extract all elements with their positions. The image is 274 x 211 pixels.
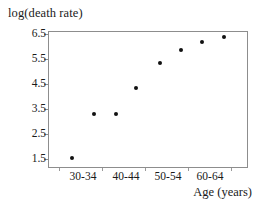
y-tick-label: 1.5 [20,153,46,165]
scatter-plot-figure: log(death rate) 6.55.54.53.52.51.5 30-34… [0,0,274,211]
y-tick-label: 6.5 [20,28,46,40]
data-point [158,61,162,65]
data-point [134,86,138,90]
data-point [222,35,226,39]
data-point [70,156,74,160]
x-tick-label: 50-54 [155,170,182,183]
y-tick-label: 2.5 [20,128,46,140]
data-point [92,112,96,116]
y-axis-tick-labels: 6.55.54.53.52.51.5 [16,31,46,168]
y-axis-title: log(death rate) [8,6,83,20]
x-axis-title: Age (years) [193,185,252,199]
x-tick-label: 40-44 [113,170,140,183]
data-point [200,40,204,44]
x-axis-tick-labels: 30-3440-4450-5460-64 [48,170,248,186]
y-tick-label: 4.5 [20,78,46,90]
data-point [114,112,118,116]
y-tick-label: 5.5 [20,53,46,65]
data-points-layer [48,31,248,168]
data-point [179,48,183,52]
x-tick-label: 60-64 [197,170,224,183]
y-tick-label: 3.5 [20,103,46,115]
x-tick-label: 30-34 [70,170,97,183]
